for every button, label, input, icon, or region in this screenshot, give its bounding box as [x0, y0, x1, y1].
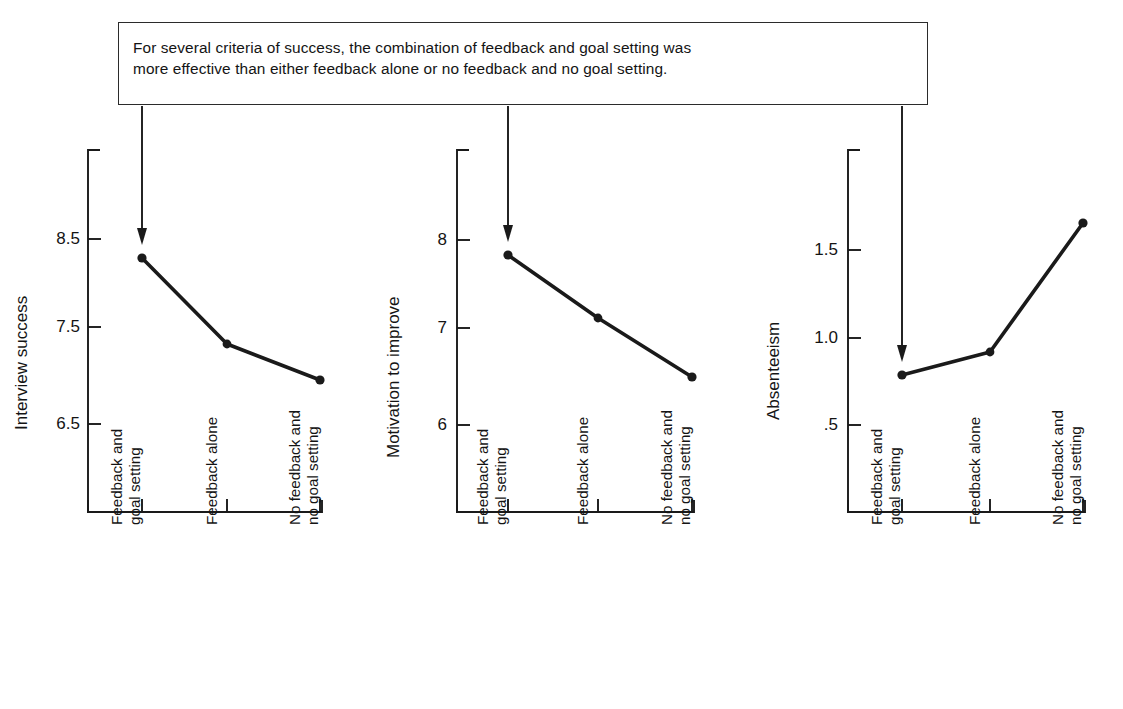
y-tick-label-panel-2-2: 6	[412, 415, 447, 435]
y-tick-label-panel-3-0: 1.5	[790, 240, 838, 260]
x-tick-label-panel-2-1-line1: Feedback alone	[574, 417, 592, 525]
y-axis-title-panel-3: Absenteeism	[764, 322, 784, 420]
callout-text: For several criteria of success, the com…	[133, 37, 915, 79]
callout-line-1: For several criteria of success, the com…	[133, 37, 915, 58]
data-point-panel-1-0	[137, 253, 146, 262]
y-tick-label-panel-3-2: .5	[790, 415, 838, 435]
x-tick-label-panel-3-2-line2: no goal setting	[1067, 410, 1085, 525]
y-axis-title-panel-2: Motivation to improve	[384, 296, 404, 458]
y-axis-line-panel-1	[88, 150, 100, 512]
x-tick-label-panel-2-0: Feedback and goal setting	[474, 429, 509, 525]
data-point-panel-3-1	[986, 348, 995, 357]
x-tick-label-panel-3-2-line1: No feedback and	[1049, 410, 1067, 525]
callout-arrow-head-panel-3	[897, 345, 907, 362]
x-tick-label-panel-1-1: Feedback alone	[203, 417, 221, 525]
x-tick-label-panel-1-0-line1: Feedback and	[108, 429, 126, 525]
x-tick-label-panel-2-2-line2: no goal setting	[676, 410, 694, 525]
y-axis-title-panel-1: Interview success	[12, 296, 32, 430]
callout-line-2: more effective than either feedback alon…	[133, 58, 915, 79]
y-tick-label-panel-1-2: 6.5	[38, 414, 80, 434]
callout-arrow-head-panel-1	[137, 228, 147, 245]
data-point-panel-1-2	[315, 375, 324, 384]
x-tick-label-panel-3-1: Feedback alone	[966, 417, 984, 525]
x-tick-label-panel-2-0-line2: goal setting	[492, 429, 510, 525]
figure-container: For several criteria of success, the com…	[0, 0, 1123, 709]
y-tick-label-panel-1-1: 7.5	[38, 317, 80, 337]
x-tick-label-panel-3-0-line2: goal setting	[886, 429, 904, 525]
x-tick-label-panel-1-0-line2: goal setting	[126, 429, 144, 525]
y-tick-label-panel-3-1: 1.0	[790, 328, 838, 348]
x-tick-label-panel-1-2: No feedback and no goal setting	[286, 410, 321, 525]
y-tick-label-panel-1-0: 8.5	[38, 229, 80, 249]
x-tick-label-panel-2-2: No feedback and no goal setting	[658, 410, 693, 525]
callout-arrow-head-panel-2	[503, 225, 513, 242]
x-tick-label-panel-1-2-line1: No feedback and	[286, 410, 304, 525]
x-tick-label-panel-2-1: Feedback alone	[574, 417, 592, 525]
x-tick-label-panel-2-0-line1: Feedback and	[474, 429, 492, 525]
x-tick-label-panel-3-0-line1: Feedback and	[868, 429, 886, 525]
data-point-panel-3-0	[897, 370, 906, 379]
x-tick-label-panel-1-2-line2: no goal setting	[304, 410, 322, 525]
x-tick-label-panel-2-2-line1: No feedback and	[658, 410, 676, 525]
x-tick-label-panel-3-1-line1: Feedback alone	[966, 417, 984, 525]
y-axis-line-panel-3	[848, 150, 860, 512]
callout-box: For several criteria of success, the com…	[118, 22, 928, 105]
data-point-panel-3-2	[1078, 218, 1087, 227]
data-point-panel-2-2	[687, 372, 696, 381]
y-axis-line-panel-2	[457, 150, 469, 512]
x-tick-label-panel-1-1-line1: Feedback alone	[203, 417, 221, 525]
data-point-panel-1-1	[223, 340, 232, 349]
figure-canvas	[0, 0, 1123, 709]
data-point-panel-2-0	[503, 250, 512, 259]
x-tick-label-panel-1-0: Feedback and goal setting	[108, 429, 143, 525]
x-tick-label-panel-3-2: No feedback and no goal setting	[1049, 410, 1084, 525]
y-tick-label-panel-2-1: 7	[412, 318, 447, 338]
data-point-panel-2-1	[594, 314, 603, 323]
data-line-panel-1	[142, 258, 320, 380]
y-tick-label-panel-2-0: 8	[412, 230, 447, 250]
x-tick-label-panel-3-0: Feedback and goal setting	[868, 429, 903, 525]
